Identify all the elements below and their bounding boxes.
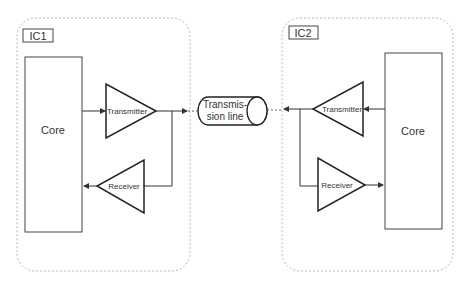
ic1-label: IC1 bbox=[29, 30, 46, 42]
transmission-line: Transmis- sion line bbox=[188, 97, 281, 125]
ic2-core-label: Core bbox=[401, 125, 425, 137]
ic1-receiver-label: Receiver bbox=[108, 182, 140, 191]
transmission-line-label-1: Transmis- bbox=[203, 99, 247, 110]
ic1-block: IC1 Core Transmitter Receiver bbox=[17, 18, 190, 271]
ic1-transmitter-label: Transmitter bbox=[107, 107, 147, 116]
ic2-block: IC2 Core Transmitter Receiver bbox=[282, 18, 453, 271]
ic2-receiver-label: Receiver bbox=[321, 181, 353, 190]
ic1-core bbox=[25, 57, 82, 232]
ic2-label: IC2 bbox=[294, 27, 311, 39]
transmission-line-label-2: sion line bbox=[207, 111, 244, 122]
ic1-core-label: Core bbox=[41, 124, 65, 136]
diagram-canvas: IC1 Core Transmitter Receiver Transmis- … bbox=[0, 0, 468, 288]
transmission-line-end-cap bbox=[247, 97, 267, 125]
ic2-transmitter-label: Transmitter bbox=[322, 105, 362, 114]
ic2-core bbox=[385, 53, 442, 229]
